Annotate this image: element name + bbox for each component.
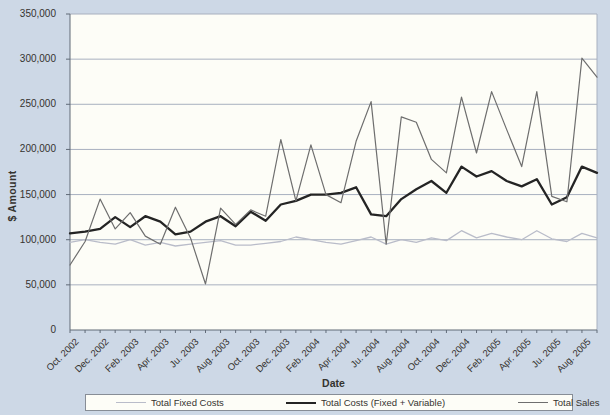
total-sales-line-swatch [518,402,548,403]
legend-entry-total-costs: Total Costs (Fixed + Variable) [286,395,445,410]
legend: Total Fixed Costs Total Costs (Fixed + V… [85,394,573,411]
y-axis-tick-label: 100,000 [0,235,56,245]
y-axis-tick-label: 250,000 [0,99,56,109]
y-axis-tick-label: 0 [0,325,56,335]
legend-entry-total-fixed-costs: Total Fixed Costs [116,395,224,410]
legend-label: Total Sales [553,397,599,408]
fixed-costs-line-swatch [116,402,146,403]
y-axis-tick-label: 150,000 [0,190,56,200]
y-axis-tick-label: 350,000 [0,9,56,19]
legend-entry-total-sales: Total Sales [518,395,599,410]
y-axis-tick-label: 200,000 [0,144,56,154]
legend-label: Total Fixed Costs [151,397,224,408]
y-axis-tick-label: 50,000 [0,280,56,290]
series-line-2 [70,58,597,284]
legend-label: Total Costs (Fixed + Variable) [321,397,445,408]
y-axis-tick-label: 300,000 [0,54,56,64]
series-line-1 [70,167,597,235]
x-axis-title: Date [70,377,597,389]
line-chart: $ Amount Date Total Fixed Costs Total Co… [0,0,610,415]
total-costs-line-swatch [286,402,316,404]
